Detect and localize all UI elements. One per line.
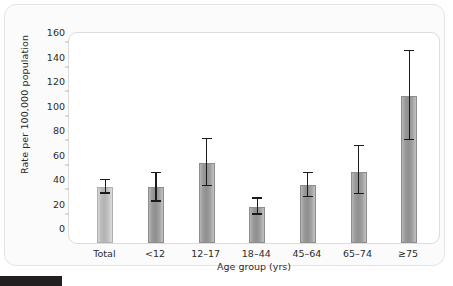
error-bar-lower-cap <box>151 200 161 201</box>
y-tick-label: 140 <box>35 51 65 62</box>
error-bar-lower-cap <box>404 139 414 140</box>
error-bar-line <box>358 146 359 194</box>
error-bar-lower-cap <box>354 193 364 194</box>
y-tick-label: 80 <box>35 125 65 136</box>
y-tick-label: 0 <box>35 223 65 234</box>
error-bar-upper-cap <box>151 172 161 173</box>
error-bar-upper-cap <box>252 197 262 198</box>
error-bar-upper-cap <box>100 179 110 180</box>
error-bar-lower-cap <box>252 213 262 214</box>
error-bar-upper-cap <box>354 145 364 146</box>
y-tick-label: 20 <box>35 198 65 209</box>
x-tick-label: Total <box>93 248 115 259</box>
error-bar-upper-cap <box>404 50 414 51</box>
y-tick-label: 100 <box>35 100 65 111</box>
error-bar-line <box>257 199 258 215</box>
error-bar-line <box>307 173 308 197</box>
y-tick-label: 60 <box>35 149 65 160</box>
error-bar-lower-cap <box>202 185 212 186</box>
y-axis-title: Rate per 100,000 population <box>19 5 30 205</box>
plot-area: 020406080100120140160 <box>68 32 440 244</box>
x-tick-label: ≥75 <box>398 248 418 259</box>
error-bar-upper-cap <box>202 138 212 139</box>
error-bar-upper-cap <box>303 172 313 173</box>
x-tick-label: 45–64 <box>292 248 321 259</box>
cropped-dark-band <box>0 276 62 286</box>
bar-series <box>69 33 439 243</box>
error-bar-line <box>155 173 156 201</box>
error-bar-line <box>409 51 410 140</box>
x-tick-label: 12–17 <box>191 248 220 259</box>
x-tick-label: 65–74 <box>343 248 372 259</box>
bar <box>97 187 113 243</box>
y-tick-label: 120 <box>35 76 65 87</box>
x-tick-label: 18–44 <box>242 248 271 259</box>
figure-panel: Rate per 100,000 population 020406080100… <box>4 4 445 266</box>
error-bar-line <box>206 139 207 186</box>
y-tick-label: 40 <box>35 174 65 185</box>
error-bar-lower-cap <box>303 196 313 197</box>
error-bar-lower-cap <box>100 192 110 193</box>
y-tick-label: 160 <box>35 27 65 38</box>
x-tick-label: <12 <box>145 248 165 259</box>
x-axis-title: Age group (yrs) <box>68 261 440 272</box>
